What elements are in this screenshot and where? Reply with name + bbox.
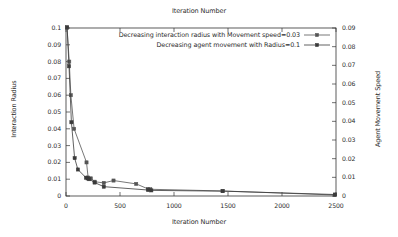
chart-figure: Iteration Number Interaction Radius Agen…	[0, 0, 398, 237]
data-point-marker	[333, 193, 336, 196]
data-point-marker	[65, 25, 68, 28]
data-point-marker	[150, 189, 153, 192]
data-point-marker	[76, 168, 79, 171]
data-point-marker	[88, 178, 91, 181]
data-point-marker	[221, 190, 224, 193]
data-point-marker	[146, 188, 149, 191]
data-point-marker	[67, 65, 70, 68]
series-line-1	[67, 27, 335, 194]
data-point-marker	[102, 181, 105, 184]
plot-canvas	[0, 0, 398, 237]
data-point-marker	[93, 181, 96, 184]
data-point-marker	[112, 179, 115, 182]
series-line-0	[67, 28, 335, 195]
data-point-marker	[70, 121, 73, 124]
plot-frame	[66, 28, 336, 196]
data-point-marker	[73, 127, 76, 130]
data-point-marker	[73, 157, 76, 160]
data-point-marker	[102, 185, 105, 188]
data-point-marker	[135, 182, 138, 185]
data-point-marker	[69, 94, 72, 97]
data-point-marker	[85, 161, 88, 164]
